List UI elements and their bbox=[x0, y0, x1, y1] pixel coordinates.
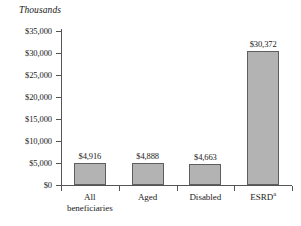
x-axis-tick bbox=[119, 186, 120, 191]
x-axis-category-label: ESRDa bbox=[224, 192, 301, 203]
y-axis-tick-label: $20,000 bbox=[25, 92, 52, 102]
y-axis-tick bbox=[56, 141, 61, 142]
y-axis-tick-label: $35,000 bbox=[25, 26, 52, 36]
y-axis-tick bbox=[56, 163, 61, 164]
axis-unit-caption: Thousands bbox=[19, 5, 61, 15]
x-axis-tick bbox=[292, 186, 293, 191]
y-axis-tick-label: $5,000 bbox=[29, 158, 52, 168]
y-axis-tick-label: $30,000 bbox=[25, 48, 52, 58]
y-axis-tick-label: $25,000 bbox=[25, 70, 52, 80]
y-axis-tick bbox=[56, 31, 61, 32]
y-axis-tick bbox=[56, 119, 61, 120]
bar-chart: Thousands $0$5,000$10,000$15,000$20,000$… bbox=[0, 0, 301, 226]
y-axis-tick-label: $15,000 bbox=[25, 114, 52, 124]
footnote-marker: a bbox=[273, 190, 276, 197]
bar bbox=[189, 164, 221, 185]
bar bbox=[247, 51, 279, 185]
y-axis-tick bbox=[56, 75, 61, 76]
bar-value-label: $30,372 bbox=[234, 39, 292, 49]
y-axis-tick bbox=[56, 53, 61, 54]
y-axis-tick bbox=[56, 97, 61, 98]
bar-value-label: $4,663 bbox=[177, 152, 235, 162]
bar bbox=[74, 163, 106, 185]
bar-value-label: $4,888 bbox=[119, 151, 177, 161]
y-axis-tick-label: $10,000 bbox=[25, 136, 52, 146]
x-axis-tick bbox=[234, 186, 235, 191]
bar bbox=[132, 163, 164, 185]
x-axis-tick bbox=[177, 186, 178, 191]
y-axis-tick-label: $0 bbox=[44, 180, 52, 190]
bar-value-label: $4,916 bbox=[61, 151, 119, 161]
y-axis-line bbox=[61, 29, 62, 186]
x-axis-tick bbox=[61, 186, 62, 191]
